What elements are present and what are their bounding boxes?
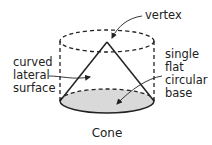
vertex-label: vertex	[145, 8, 182, 22]
cylinder-top-outline	[60, 30, 154, 52]
lateral-label-line2: lateral	[13, 68, 50, 82]
lateral-arrow-icon	[49, 76, 90, 78]
lateral-label-line1: curved	[13, 55, 53, 69]
base-label-line2: flat	[165, 60, 184, 74]
base-label-line4: base	[165, 86, 192, 100]
diagram-title: Cone	[92, 126, 123, 140]
cone-diagram: vertex curved lateral surface single fla…	[0, 0, 212, 145]
base-label-line3: circular	[165, 73, 208, 87]
lateral-label-line3: surface	[13, 81, 56, 95]
base-label-line1: single	[165, 47, 199, 61]
vertex-arrow-icon	[112, 16, 142, 38]
